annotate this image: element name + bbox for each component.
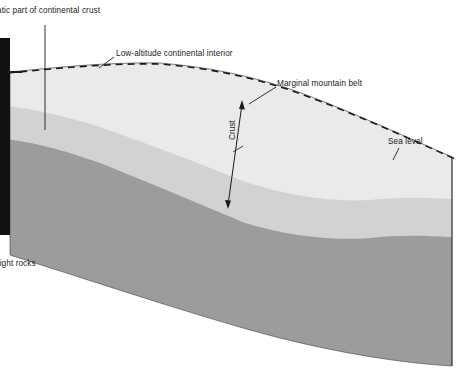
section-marker-c: c — [3, 187, 7, 196]
datum-start-dash — [10, 71, 22, 73]
low-altitude-label: Low-altitude continental interior — [116, 49, 233, 58]
left-edge-bar — [0, 38, 10, 235]
section-marker-c-prime: c' — [3, 222, 9, 231]
cross-section-canvas — [0, 0, 476, 377]
sea-level-label: Sea level — [388, 137, 423, 146]
cross-section-diagram: atic part of continental crust Low-altit… — [0, 0, 476, 377]
crust-label: Crust — [228, 120, 237, 140]
marginal-belt-label: Marginal mountain belt — [277, 79, 362, 88]
heavy-rocks-label: eight rocks — [0, 259, 36, 268]
sialic-crust-label: atic part of continental crust — [0, 6, 100, 15]
